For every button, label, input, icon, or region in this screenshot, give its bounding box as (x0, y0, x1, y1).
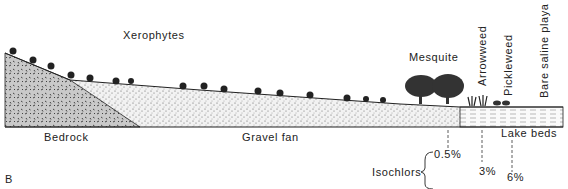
arrowweed-label: Arrowweed (476, 26, 488, 86)
lake-beds-layer (460, 107, 563, 127)
bedrock-label: Bedrock (44, 131, 89, 143)
isochlor-brace (421, 152, 433, 189)
mesquite-label: Mesquite (409, 51, 458, 63)
panel-letter: B (5, 173, 13, 185)
mesquite-trees-icon (405, 74, 464, 104)
pickleweed-label: Pickleweed (502, 34, 514, 96)
isochlor-value-3: 3% (479, 165, 496, 177)
lake-beds-label: Lake beds (501, 127, 557, 139)
xerophytes-label: Xerophytes (123, 29, 185, 41)
pickleweed-plants-icon (493, 101, 510, 106)
isochlor-value-0-5: 0.5% (434, 148, 461, 160)
gravel-fan-label: Gravel fan (242, 131, 299, 143)
isochlor-value-6: 6% (507, 171, 524, 183)
bare-saline-playa-label: Bare saline playa (538, 3, 550, 98)
arrowweed-plants-icon (468, 95, 487, 106)
isochlors-label: Isochlors (372, 166, 421, 178)
